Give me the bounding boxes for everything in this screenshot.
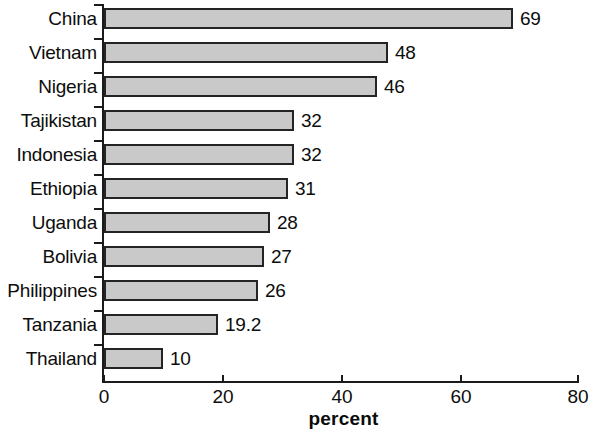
bar-1 <box>104 42 388 63</box>
x-axis-tick-0 <box>103 375 105 383</box>
x-axis-tick-label-4: 80 <box>567 386 588 408</box>
x-axis-tick-3 <box>460 375 462 383</box>
bar-value-label-8: 26 <box>265 281 286 301</box>
bar-4 <box>104 144 294 165</box>
x-axis-title: percent <box>0 408 603 430</box>
bar-9 <box>104 314 218 335</box>
y-axis-category-labels: China Vietnam Nigeria Tajikistan Indones… <box>0 0 97 432</box>
bar-value-label-1: 48 <box>395 43 416 63</box>
y-axis-tick-1 <box>94 38 103 40</box>
bar-value-label-0: 69 <box>520 9 541 29</box>
bar-value-label-7: 27 <box>271 247 292 267</box>
y-axis-label-4: Indonesia <box>0 145 97 165</box>
y-axis-label-5: Ethiopia <box>0 179 97 199</box>
bar-value-label-4: 32 <box>301 145 322 165</box>
y-axis-label-3: Tajikistan <box>0 111 97 131</box>
bar-10 <box>104 348 163 369</box>
y-axis-label-6: Uganda <box>0 213 97 233</box>
y-axis-label-0: China <box>0 9 97 29</box>
bar-chart: China Vietnam Nigeria Tajikistan Indones… <box>0 0 603 432</box>
y-axis-label-2: Nigeria <box>0 77 97 97</box>
y-axis-tick-3 <box>94 106 103 108</box>
bar-value-label-2: 46 <box>384 77 405 97</box>
bar-0 <box>104 8 513 29</box>
y-axis-tick-4 <box>94 140 103 142</box>
bar-6 <box>104 212 270 233</box>
bar-value-label-10: 10 <box>170 349 191 369</box>
x-axis-tick-1 <box>222 375 224 383</box>
x-axis-tick-4 <box>577 375 579 383</box>
x-axis-tick-2 <box>341 375 343 383</box>
bar-5 <box>104 178 288 199</box>
y-axis-label-7: Bolivia <box>0 247 97 267</box>
y-axis-tick-5 <box>94 174 103 176</box>
y-axis-label-8: Philippines <box>0 281 97 301</box>
y-axis-tick-8 <box>94 276 103 278</box>
y-axis-tick-7 <box>94 242 103 244</box>
x-axis-title-text: percent <box>308 408 378 430</box>
bar-value-label-5: 31 <box>295 179 316 199</box>
x-axis-tick-label-0: 0 <box>99 386 110 408</box>
y-axis-label-1: Vietnam <box>0 43 97 63</box>
bar-value-label-3: 32 <box>301 111 322 131</box>
x-axis-tick-label-1: 20 <box>212 386 233 408</box>
bar-3 <box>104 110 294 131</box>
plot-area: 69 48 46 32 32 31 28 27 26 19.2 10 <box>104 0 578 385</box>
y-axis-tick-6 <box>94 208 103 210</box>
x-axis-tick-label-3: 60 <box>450 386 471 408</box>
y-axis-tick-10 <box>94 344 103 346</box>
bar-value-label-6: 28 <box>277 213 298 233</box>
bar-value-label-9: 19.2 <box>225 315 261 335</box>
bar-8 <box>104 280 258 301</box>
y-axis-label-9: Tanzania <box>0 315 97 335</box>
y-axis-label-10: Thailand <box>0 349 97 369</box>
bar-7 <box>104 246 264 267</box>
y-axis-tick-top <box>94 4 103 6</box>
x-axis-tick-label-2: 40 <box>331 386 352 408</box>
y-axis-tick-2 <box>94 72 103 74</box>
y-axis-tick-9 <box>94 310 103 312</box>
bar-2 <box>104 76 377 97</box>
